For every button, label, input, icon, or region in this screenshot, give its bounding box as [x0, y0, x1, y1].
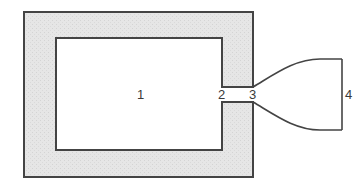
nozzle-lower-wall: [253, 102, 342, 130]
label-nozzle-exit: 4: [345, 87, 352, 102]
nozzle-diagram: 1 2 3 4: [0, 0, 362, 187]
label-throat-exit: 3: [249, 87, 256, 102]
label-throat-entry: 2: [218, 87, 225, 102]
nozzle-upper-wall: [253, 59, 342, 87]
label-chamber: 1: [137, 87, 144, 102]
